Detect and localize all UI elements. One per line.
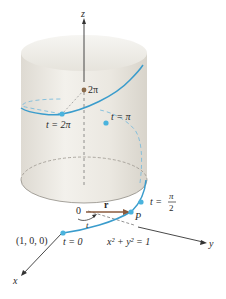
z-2pi-label: 2π (88, 84, 98, 95)
t-pi-label: t = π (111, 111, 132, 122)
helix-diagram: z x y 2π t = 2π t = π 0 r P t t = π 2 (1… (0, 0, 226, 299)
point-P-label: P (134, 211, 141, 222)
point-t0 (60, 230, 65, 235)
x-axis-label: x (12, 275, 18, 286)
t-pi-2-numerator: π (169, 191, 174, 201)
vector-r-label: r (104, 199, 109, 210)
origin-label: 0 (76, 205, 81, 216)
cylinder-equation-label: x² + y² = 1 (106, 236, 150, 247)
point-100-label: (1, 0, 0) (16, 235, 48, 247)
point-z-2pi (82, 88, 87, 93)
t-pi-2-denominator: 2 (169, 203, 174, 213)
y-axis-label: y (208, 238, 214, 249)
y-axis-arrowhead-icon (200, 240, 207, 245)
t0-label: t = 0 (63, 236, 83, 247)
point-t-2pi (59, 111, 64, 116)
point-P (128, 209, 133, 214)
z-axis-label: z (80, 8, 85, 19)
point-t-pi-2 (138, 199, 143, 204)
t-pi-2-prefix: t = (150, 196, 162, 207)
t-2pi-label: t = 2π (46, 119, 72, 130)
point-t-pi (103, 120, 108, 125)
